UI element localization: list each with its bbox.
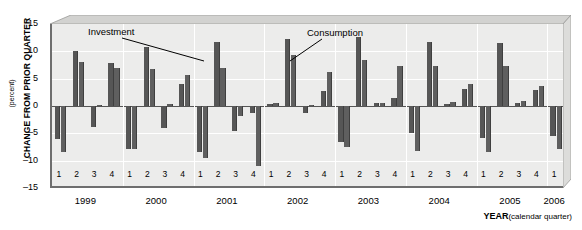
bar-consumption — [468, 84, 473, 106]
bar-consumption — [433, 66, 438, 106]
y-axis-tick-label: 0 — [12, 101, 38, 110]
bar-investment — [497, 43, 502, 106]
annotation-consumption: Consumption — [307, 27, 363, 38]
bar-consumption — [273, 103, 278, 106]
x-axis-quarter-label: 3 — [157, 169, 173, 179]
bar-consumption — [397, 66, 402, 106]
x-axis-quarter-label: 4 — [458, 169, 474, 179]
x-axis-quarter-label: 2 — [139, 169, 155, 179]
bar-consumption — [539, 86, 544, 106]
x-axis-quarter-label: 2 — [352, 169, 368, 179]
x-axis-quarter-label: 1 — [334, 169, 350, 179]
x-axis-quarter-label: 4 — [316, 169, 332, 179]
bar-investment — [267, 104, 272, 106]
x-axis-quarter-label: 4 — [528, 169, 544, 179]
bar-consumption — [344, 106, 349, 147]
x-axis-quarter-label: 4 — [104, 169, 120, 179]
x-axis-quarter-label: 2 — [69, 169, 85, 179]
bar-consumption — [61, 106, 66, 152]
bar-investment — [197, 106, 202, 152]
gridline-vertical — [406, 24, 407, 186]
x-axis-quarter-label: 3 — [369, 169, 385, 179]
bar-consumption — [486, 106, 491, 152]
bar-investment — [179, 84, 184, 106]
x-axis-quarter-label: 2 — [422, 169, 438, 179]
bar-investment — [161, 106, 166, 128]
y-axis-tick-label: 5 — [12, 74, 38, 83]
bar-investment — [356, 37, 361, 106]
bar-consumption — [256, 106, 261, 166]
x-axis-quarter-label: 1 — [192, 169, 208, 179]
x-axis-title: YEAR(calendar quarter) — [483, 211, 572, 221]
x-axis-quarter-label: 2 — [281, 169, 297, 179]
x-axis-year-label: 2001 — [202, 195, 252, 206]
x-axis-quarter-label: 1 — [475, 169, 491, 179]
bar-consumption — [238, 106, 243, 116]
x-axis-quarter-label: 1 — [51, 169, 67, 179]
bar-consumption — [362, 60, 367, 106]
x-axis-quarter-label: 4 — [245, 169, 261, 179]
x-axis-quarter-label: 3 — [86, 169, 102, 179]
gridline-vertical — [123, 24, 124, 186]
x-axis-quarter-label: 1 — [263, 169, 279, 179]
y-axis-tick-label: –15 — [12, 183, 38, 192]
x-axis-year-label: 1999 — [60, 195, 110, 206]
gridline-horizontal — [52, 51, 563, 52]
x-axis-year-label: 2000 — [131, 195, 181, 206]
bar-investment — [214, 42, 219, 106]
bar-consumption — [503, 66, 508, 106]
y-axis-tick-label: –5 — [12, 128, 38, 137]
x-axis-quarter-label: 3 — [299, 169, 315, 179]
x-axis-year-label: 2002 — [273, 195, 323, 206]
y-axis-tick-labels: 151050–5–10–15 — [8, 0, 38, 200]
bar-consumption — [450, 102, 455, 106]
plot-area — [50, 24, 563, 188]
x-axis-title-sub: (calendar quarter) — [508, 212, 572, 221]
bar-investment — [391, 98, 396, 106]
x-axis-quarter-label: 3 — [511, 169, 527, 179]
bar-investment — [144, 47, 149, 106]
bar-investment — [73, 51, 78, 106]
bar-investment — [232, 106, 237, 131]
chart-figure: CHANGE FROM PRIOR QUARTER (percent) 1510… — [0, 0, 582, 230]
bar-investment — [91, 106, 96, 127]
bar-consumption — [150, 69, 155, 106]
bar-consumption — [309, 105, 314, 106]
bar-investment — [250, 106, 255, 113]
bar-investment — [480, 106, 485, 138]
bar-consumption — [132, 106, 137, 149]
bar-investment — [444, 104, 449, 106]
x-axis-quarter-label: 1 — [546, 169, 562, 179]
x-axis-quarter-label: 2 — [493, 169, 509, 179]
bar-consumption — [220, 68, 225, 106]
y-axis-tick-label: 15 — [12, 19, 38, 28]
bar-investment — [55, 106, 60, 139]
bar-investment — [427, 42, 432, 106]
bar-investment — [409, 106, 414, 133]
x-axis-year-label: 2003 — [343, 195, 393, 206]
annotation-investment: Investment — [88, 26, 134, 37]
bar-investment — [108, 63, 113, 106]
x-axis-year-label: 2004 — [414, 195, 464, 206]
x-axis-quarter-label: 2 — [210, 169, 226, 179]
bar-investment — [533, 90, 538, 106]
bar-consumption — [114, 68, 119, 106]
x-axis-quarter-label: 4 — [175, 169, 191, 179]
bar-investment — [550, 106, 555, 136]
gridline-vertical — [547, 24, 548, 186]
x-axis-quarter-label: 3 — [440, 169, 456, 179]
bar-investment — [374, 103, 379, 106]
bar-consumption — [185, 75, 190, 106]
bar-consumption — [557, 106, 562, 149]
x-axis-quarter-label: 3 — [228, 169, 244, 179]
x-axis-quarter-label: 4 — [387, 169, 403, 179]
gridline-horizontal — [52, 79, 563, 80]
bar-consumption — [291, 55, 296, 106]
bar-consumption — [167, 104, 172, 106]
bar-investment — [515, 103, 520, 106]
bar-consumption — [380, 103, 385, 106]
bar-consumption — [415, 106, 420, 151]
x-axis-year-label: 2005 — [485, 195, 535, 206]
bar-consumption — [521, 101, 526, 106]
y-axis-tick-label: –10 — [12, 156, 38, 165]
